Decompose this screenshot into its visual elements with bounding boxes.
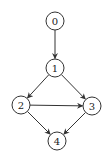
- edge-3-to-4: [64, 112, 86, 134]
- edge-1-to-2: [27, 75, 48, 98]
- node-4: 4: [48, 132, 66, 150]
- node-label: 2: [18, 100, 24, 111]
- node-label: 4: [54, 136, 60, 147]
- edge-1-to-3: [61, 74, 85, 99]
- node-label: 1: [52, 63, 58, 74]
- edges: [27, 30, 85, 134]
- nodes: 01234: [12, 12, 101, 150]
- node-label: 3: [89, 101, 95, 112]
- node-1: 1: [46, 59, 64, 77]
- graph-canvas: 01234: [0, 0, 110, 158]
- edge-2-to-3: [30, 105, 83, 106]
- node-0: 0: [46, 12, 64, 30]
- node-3: 3: [83, 97, 101, 115]
- edge-2-to-4: [27, 111, 50, 134]
- directed-graph-diagram: 01234: [0, 0, 110, 158]
- node-2: 2: [12, 96, 30, 114]
- node-label: 0: [52, 16, 58, 27]
